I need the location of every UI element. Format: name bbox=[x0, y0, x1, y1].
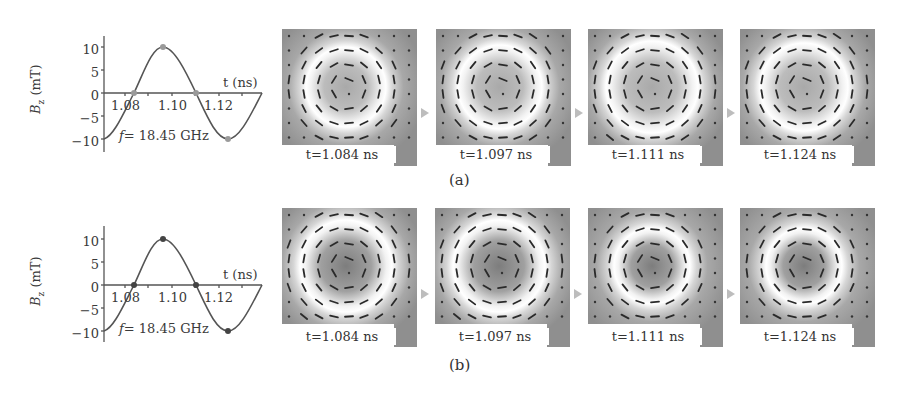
snapshot-panel-a2: t=1.097 ns bbox=[436, 29, 572, 166]
sequence-arrow bbox=[575, 108, 583, 118]
sequence-arrow bbox=[574, 289, 582, 299]
y-axis bbox=[101, 226, 104, 342]
y-tick: −10 bbox=[66, 130, 99, 153]
x-axis-label: t (ns) bbox=[223, 267, 258, 282]
figure-row-a: 10 5 0 −5 −10 Bz (mT) t (ns) 1.08 1.10 1… bbox=[0, 0, 917, 190]
x-axis bbox=[104, 285, 262, 288]
x-tick-1.08: 1.08 bbox=[111, 290, 140, 305]
time-label: t=1.084 ns bbox=[288, 146, 396, 163]
sequence-arrow bbox=[727, 108, 735, 118]
time-label: t=1.124 ns bbox=[746, 146, 854, 163]
y-tick: 0 bbox=[66, 84, 99, 107]
snapshot-panel-b2: t=1.097 ns bbox=[435, 208, 571, 345]
x-tick-1.10: 1.10 bbox=[158, 290, 187, 305]
subfigure-caption-a: (a) bbox=[449, 171, 470, 189]
sequence-arrow bbox=[727, 289, 735, 299]
y-tick: 5 bbox=[66, 253, 99, 276]
sequence-arrow bbox=[421, 108, 429, 118]
y-tick: 5 bbox=[66, 61, 99, 84]
vortex-vector-field bbox=[282, 208, 418, 347]
y-tick: −5 bbox=[66, 107, 99, 130]
y-tick: 10 bbox=[66, 38, 99, 61]
frequency-annotation: f= 18.45 GHz bbox=[119, 321, 209, 336]
snapshot-panel-b3: t=1.111 ns bbox=[588, 208, 724, 345]
y-axis bbox=[101, 36, 104, 152]
snapshot-panel-a4: t=1.124 ns bbox=[740, 29, 876, 166]
figure-row-b: 10 5 0 −5 −10 Bz (mT) t (ns) 1.08 1.10 1… bbox=[0, 190, 917, 396]
x-axis-label: t (ns) bbox=[223, 75, 258, 90]
time-label: t=1.084 ns bbox=[288, 328, 396, 345]
y-tick: 10 bbox=[66, 230, 99, 253]
sequence-arrow bbox=[421, 289, 429, 299]
subfigure-caption-b: (b) bbox=[449, 356, 470, 374]
y-tick: −10 bbox=[66, 322, 99, 345]
y-tick: −5 bbox=[66, 299, 99, 322]
time-label: t=1.097 ns bbox=[442, 146, 550, 163]
y-tick-labels: 10 5 0 −5 −10 bbox=[66, 230, 99, 345]
y-axis-label: Bz (mT) bbox=[28, 64, 46, 114]
x-tick-1.12: 1.12 bbox=[204, 290, 233, 305]
vortex-vector-field bbox=[588, 208, 724, 347]
x-tick-1.10: 1.10 bbox=[158, 98, 187, 113]
x-tick-1.08: 1.08 bbox=[111, 98, 140, 113]
vortex-vector-field bbox=[435, 208, 571, 347]
snapshot-panel-b4: t=1.124 ns bbox=[740, 208, 876, 345]
y-axis-label: Bz (mT) bbox=[28, 256, 46, 306]
snapshot-panel-b1: t=1.084 ns bbox=[282, 208, 418, 345]
x-axis bbox=[104, 93, 262, 96]
time-label: t=1.111 ns bbox=[594, 328, 702, 345]
time-label: t=1.097 ns bbox=[441, 328, 549, 345]
snapshot-panel-a3: t=1.111 ns bbox=[588, 29, 724, 166]
y-tick-labels: 10 5 0 −5 −10 bbox=[66, 38, 99, 153]
y-tick: 0 bbox=[66, 276, 99, 299]
frequency-annotation: f= 18.45 GHz bbox=[119, 128, 209, 143]
time-label: t=1.124 ns bbox=[746, 328, 854, 345]
x-tick-1.12: 1.12 bbox=[204, 98, 233, 113]
snapshot-panel-a1: t=1.084 ns bbox=[282, 29, 418, 166]
time-label: t=1.111 ns bbox=[594, 146, 702, 163]
vortex-vector-field bbox=[740, 208, 876, 347]
